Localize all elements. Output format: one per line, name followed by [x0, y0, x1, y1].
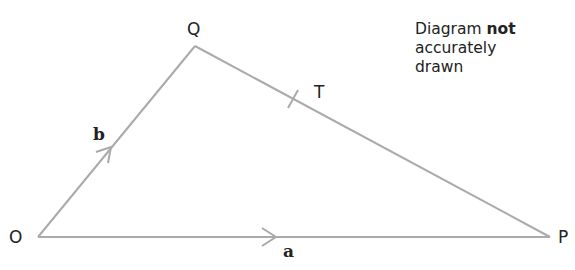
- vector-label-a: a: [283, 241, 294, 261]
- not-accurately-drawn-note: Diagram not accurately drawn: [415, 20, 516, 77]
- tick-T: [288, 90, 298, 108]
- note-line3: drawn: [415, 58, 516, 77]
- note-line1-bold: not: [486, 20, 515, 38]
- point-label-Q: Q: [187, 19, 200, 39]
- point-label-T: T: [313, 82, 325, 102]
- note-line1-prefix: Diagram: [415, 20, 486, 38]
- point-label-P: P: [558, 227, 568, 247]
- vector-label-b: b: [93, 124, 105, 144]
- point-label-O: O: [9, 227, 22, 247]
- note-line2: accurately: [415, 39, 516, 58]
- segment-OQ: [38, 46, 195, 237]
